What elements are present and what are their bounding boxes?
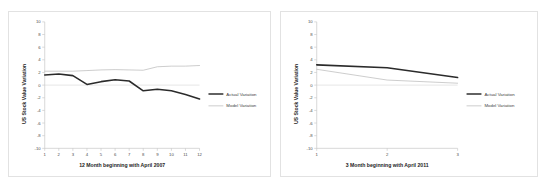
right-x-axis-title: 3 Month beginning with April 2011	[346, 162, 429, 168]
left-x-tick-label: 6	[114, 152, 117, 157]
left-x-tick-label: 5	[100, 152, 103, 157]
left-y-tick-label: 8	[38, 32, 41, 37]
right-legend-label-actual: Actual Variation	[484, 92, 515, 97]
left-x-tick-label: 8	[142, 152, 145, 157]
right-y-tick-label: -4	[309, 108, 313, 113]
right-y-tick-label: 10	[308, 19, 313, 24]
left-y-tick-label: -10	[35, 146, 42, 151]
right-series-model-variation	[317, 69, 458, 83]
right-series-actual-variation	[317, 65, 458, 78]
left-x-tick-label: 4	[86, 152, 89, 157]
right-legend: Actual Variation Model Variation	[467, 92, 516, 109]
right-y-tick-labels: 1086420-2-4-6-8-10	[307, 19, 317, 150]
left-x-tick-label: 1	[44, 152, 47, 157]
left-chart-svg: US Stock Value Variation 1086420-2-4-6-8…	[9, 12, 270, 176]
right-y-tick-label: 0	[310, 83, 313, 88]
left-y-tick-label: 2	[38, 70, 41, 75]
right-x-tick-labels: 123	[316, 148, 460, 157]
chart-panel-left: US Stock Value Variation 1086420-2-4-6-8…	[8, 11, 271, 177]
left-y-axis-title: US Stock Value Variation	[21, 64, 27, 124]
left-x-tick-label: 11	[183, 152, 188, 157]
left-y-tick-label: 10	[36, 19, 41, 24]
right-y-axis-title: US Stock Value Variation	[293, 64, 299, 124]
left-x-tick-label: 7	[128, 152, 131, 157]
right-y-tick-label: 6	[310, 45, 313, 50]
left-y-tick-label: -6	[37, 121, 41, 126]
right-y-tick-label: 8	[310, 32, 313, 37]
right-x-tick-label: 1	[316, 152, 319, 157]
left-y-tick-label: -8	[37, 133, 41, 138]
right-x-tick-label: 2	[386, 152, 389, 157]
left-x-tick-label: 2	[58, 152, 61, 157]
left-legend: Actual Variation Model Variation	[208, 92, 257, 109]
left-legend-label-model: Model Variation	[226, 103, 257, 108]
left-x-tick-label: 9	[156, 152, 159, 157]
right-y-tick-label: -10	[307, 146, 314, 151]
left-y-tick-label: 4	[38, 57, 41, 62]
left-y-tick-label: 6	[38, 45, 41, 50]
left-x-axis-title: 12 Month beginning with April 2007	[79, 162, 165, 168]
right-x-tick-label: 3	[456, 152, 459, 157]
left-y-tick-labels: 1086420-2-4-6-8-10	[35, 19, 45, 150]
right-y-tick-label: 4	[310, 57, 313, 62]
left-x-tick-labels: 123456789101112	[44, 148, 203, 157]
left-x-tick-label: 3	[72, 152, 75, 157]
left-y-tick-label: -2	[37, 95, 41, 100]
right-y-tick-label: -8	[309, 133, 313, 138]
chart-panel-right: US Stock Value Variation 1086420-2-4-6-8…	[280, 11, 538, 177]
left-series-model-variation	[45, 66, 200, 72]
left-legend-label-actual: Actual Variation	[226, 92, 257, 97]
right-legend-label-model: Model Variation	[484, 103, 515, 108]
right-y-tick-label: -6	[309, 121, 313, 126]
left-x-tick-label: 12	[197, 152, 202, 157]
right-y-tick-label: -2	[309, 95, 313, 100]
left-y-tick-label: -4	[37, 108, 41, 113]
left-series-actual-variation	[45, 74, 200, 99]
left-x-tick-label: 10	[169, 152, 174, 157]
figure-container: US Stock Value Variation 1086420-2-4-6-8…	[0, 0, 547, 187]
left-y-tick-label: 0	[38, 83, 41, 88]
right-y-tick-label: 2	[310, 70, 313, 75]
right-chart-svg: US Stock Value Variation 1086420-2-4-6-8…	[281, 12, 537, 176]
